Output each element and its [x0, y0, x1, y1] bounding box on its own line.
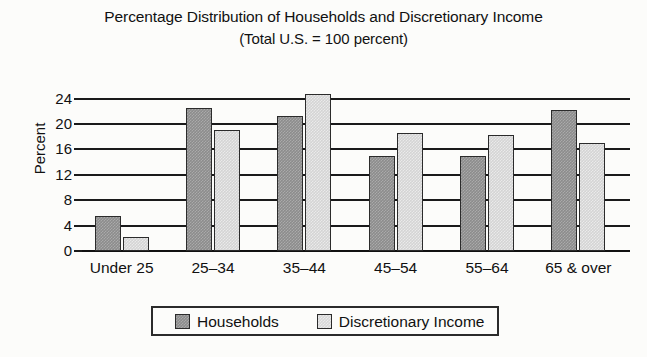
legend-swatch-discretionary-income-icon: [317, 314, 332, 329]
bar-discretionary-income-55-64: [488, 135, 514, 251]
legend-label-households: Households: [197, 313, 279, 330]
y-axis-tick-label: 8: [46, 192, 72, 207]
chart-legend: Households Discretionary Income: [151, 306, 499, 336]
chart-subtitle: (Total U.S. = 100 percent): [0, 28, 647, 49]
bar-discretionary-income-35-44: [305, 94, 331, 251]
bars-layer: [82, 86, 630, 251]
x-axis-label-under-25: Under 25: [76, 258, 167, 278]
legend-item-households: Households: [175, 313, 279, 330]
y-axis-tick-label: 16: [46, 141, 72, 156]
chart-title-block: Percentage Distribution of Households an…: [0, 6, 647, 49]
bar-households-35-44: [277, 116, 303, 251]
y-axis-tick-label: 12: [46, 167, 72, 182]
chart-page: Percentage Distribution of Households an…: [0, 0, 647, 357]
x-axis-label-45-54: 45–54: [350, 258, 441, 278]
x-axis-category-labels: Under 2525–3435–4445–5455–6465 & over: [82, 258, 630, 280]
bar-households-25-34: [186, 108, 212, 251]
bar-discretionary-income-45-54: [397, 133, 423, 251]
y-axis-tick-label: 20: [46, 116, 72, 131]
bar-households-65-over: [551, 110, 577, 251]
x-axis-label-35-44: 35–44: [259, 258, 350, 278]
y-axis-tick-label: 4: [46, 218, 72, 233]
x-axis-label-65-over: 65 & over: [533, 258, 624, 278]
bar-households-under-25: [95, 216, 121, 251]
chart-title: Percentage Distribution of Households an…: [0, 6, 647, 28]
legend-swatch-households-icon: [175, 314, 190, 329]
legend-label-discretionary-income: Discretionary Income: [339, 313, 485, 330]
bar-discretionary-income-25-34: [214, 130, 240, 251]
x-axis-label-55-64: 55–64: [441, 258, 532, 278]
bar-discretionary-income-under-25: [123, 237, 149, 251]
y-axis-tick-label: 24: [46, 91, 72, 106]
bar-households-55-64: [460, 156, 486, 251]
bar-discretionary-income-65-over: [579, 143, 605, 251]
x-axis-label-25-34: 25–34: [167, 258, 258, 278]
y-axis-title: Percent: [31, 104, 48, 194]
legend-item-discretionary-income: Discretionary Income: [317, 313, 485, 330]
y-axis-tick-label: 0: [46, 243, 72, 258]
bar-households-45-54: [369, 156, 395, 251]
